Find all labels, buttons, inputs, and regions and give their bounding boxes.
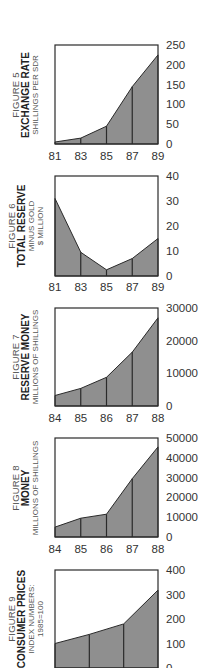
y-tick-label: 200 — [166, 613, 185, 625]
y-tick-label: 400 — [166, 564, 185, 576]
chart-9-plot: 0100200300400 — [0, 0, 208, 668]
y-tick-label: 0 — [166, 662, 172, 668]
y-tick-label: 100 — [166, 638, 185, 650]
y-tick-label: 300 — [166, 589, 185, 601]
data-area — [55, 590, 158, 668]
